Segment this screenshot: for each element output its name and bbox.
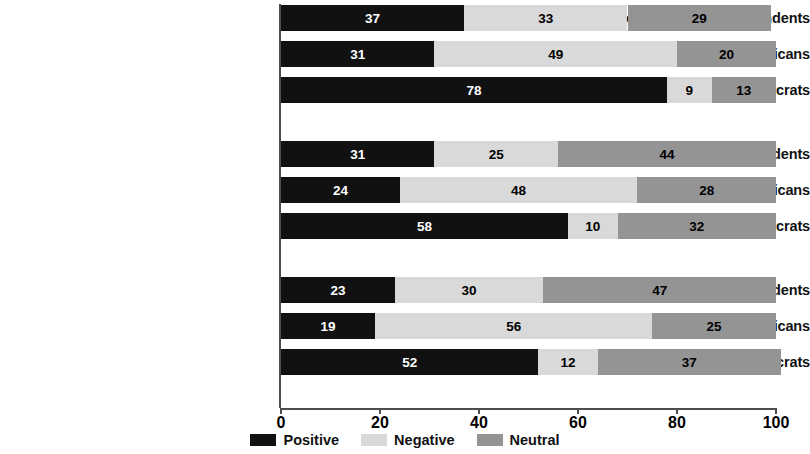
bar-track: 521237 (281, 349, 776, 375)
bar-segment-neutral: 47 (543, 277, 776, 303)
bar-segment-neutral: 37 (598, 349, 781, 375)
bar-row: (General Population) Republicans244828 (0, 177, 810, 203)
bar-row: (School Board) Democrats78913 (0, 77, 810, 103)
bar-row: (Parents) Democrats521237 (0, 349, 810, 375)
bar-segment-negative: 10 (568, 213, 618, 239)
legend-item[interactable]: Negative (361, 432, 454, 448)
x-axis-line (281, 408, 776, 410)
bar-track: 373329 (281, 5, 776, 31)
bar-track: 244828 (281, 177, 776, 203)
bar-segment-neutral: 25 (652, 313, 776, 339)
bar-segment-positive: 52 (281, 349, 538, 375)
plot-area: (School Board) Independents373329(School… (0, 0, 810, 410)
x-axis-tick-label: 80 (668, 414, 686, 432)
bar-row: (General Population) Independents312544 (0, 141, 810, 167)
x-axis-tick-label: 60 (569, 414, 587, 432)
bar-segment-neutral: 29 (628, 5, 772, 31)
bar-row: (General Population) Democrats581032 (0, 213, 810, 239)
bar-segment-positive: 37 (281, 5, 464, 31)
bar-segment-neutral: 20 (677, 41, 776, 67)
bar-segment-negative: 25 (434, 141, 558, 167)
bar-track: 78913 (281, 77, 776, 103)
bar-row: (School Board) Independents373329 (0, 5, 810, 31)
legend-swatch-icon (477, 434, 503, 446)
bar-segment-negative: 30 (395, 277, 544, 303)
legend-label: Positive (283, 432, 339, 448)
bar-segment-negative: 9 (667, 77, 712, 103)
bar-segment-negative: 33 (464, 5, 627, 31)
bar-segment-negative: 49 (434, 41, 677, 67)
bar-segment-positive: 23 (281, 277, 395, 303)
legend-item[interactable]: Positive (250, 432, 339, 448)
bar-track: 233047 (281, 277, 776, 303)
legend-label: Neutral (510, 432, 560, 448)
bar-segment-positive: 78 (281, 77, 667, 103)
bar-track: 312544 (281, 141, 776, 167)
bar-segment-positive: 31 (281, 141, 434, 167)
x-axis-tick-label: 0 (277, 414, 286, 432)
bar-segment-positive: 31 (281, 41, 434, 67)
legend-swatch-icon (250, 434, 276, 446)
x-axis-tick-label: 40 (470, 414, 488, 432)
stacked-bar-chart: (School Board) Independents373329(School… (0, 0, 810, 454)
bar-row: (Parents) Independents233047 (0, 277, 810, 303)
chart-legend: PositiveNegativeNeutral (0, 432, 810, 448)
bar-segment-negative: 48 (400, 177, 638, 203)
bar-segment-neutral: 44 (558, 141, 776, 167)
bar-segment-positive: 24 (281, 177, 400, 203)
x-axis-tick-label: 100 (763, 414, 790, 432)
legend-item[interactable]: Neutral (477, 432, 560, 448)
bar-segment-neutral: 13 (712, 77, 776, 103)
legend-label: Negative (394, 432, 454, 448)
bar-segment-neutral: 28 (637, 177, 776, 203)
bar-row: (School Board) Republicans314920 (0, 41, 810, 67)
bar-segment-neutral: 32 (618, 213, 776, 239)
bar-row: (Parents) Republicans195625 (0, 313, 810, 339)
x-axis-tick-label: 20 (371, 414, 389, 432)
bar-segment-positive: 19 (281, 313, 375, 339)
bar-segment-positive: 58 (281, 213, 568, 239)
bar-segment-negative: 56 (375, 313, 652, 339)
bar-track: 581032 (281, 213, 776, 239)
legend-swatch-icon (361, 434, 387, 446)
bar-segment-negative: 12 (538, 349, 597, 375)
bar-track: 195625 (281, 313, 776, 339)
bar-track: 314920 (281, 41, 776, 67)
